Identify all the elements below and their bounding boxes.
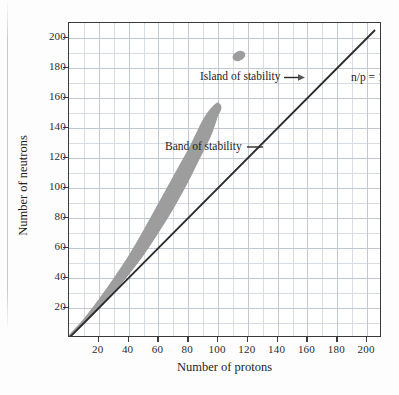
y-tick-label: 140 (49, 120, 66, 132)
x-tick-label: 120 (238, 343, 255, 355)
x-axis-title: Number of protons (68, 360, 381, 375)
y-tick-label: 40 (55, 270, 66, 282)
x-tick-label: 140 (268, 343, 285, 355)
annotation-island-label: Island of stability (200, 70, 281, 82)
y-tick-label: 80 (55, 210, 66, 222)
x-tick-label: 80 (182, 343, 193, 355)
annotation-island-of-stability: Island of stability (200, 70, 306, 82)
x-tick-mark (306, 337, 307, 342)
y-tick-label: 60 (55, 240, 66, 252)
band-of-stability-area (68, 102, 221, 337)
x-tick-mark (98, 337, 99, 342)
chart-page: Island of stability Band of stability n/… (0, 0, 399, 395)
y-tick-label: 20 (55, 300, 66, 312)
annotation-band-of-stability: Band of stability (165, 140, 265, 152)
x-tick-mark (157, 337, 158, 342)
y-tick-label: 160 (49, 90, 66, 102)
scan-edge-artifact (7, 0, 8, 330)
x-tick-mark (247, 337, 248, 342)
dash-right-icon (247, 143, 265, 151)
x-tick-mark (217, 337, 218, 342)
x-tick-label: 100 (208, 343, 225, 355)
y-tick-label: 100 (49, 180, 66, 192)
x-tick-label: 180 (328, 343, 345, 355)
x-tick-label: 60 (152, 343, 163, 355)
annotation-np-ratio: n/p = 1 (351, 71, 381, 83)
y-tick-label: 180 (49, 60, 66, 72)
y-tick-label: 120 (49, 150, 66, 162)
x-tick-mark (336, 337, 337, 342)
y-tick-label: 200 (49, 30, 66, 42)
plot-area: Island of stability Band of stability n/… (68, 22, 381, 337)
x-tick-mark (366, 337, 367, 342)
x-tick-mark (277, 337, 278, 342)
annotation-band-label: Band of stability (165, 140, 242, 152)
x-tick-label: 20 (92, 343, 103, 355)
x-tick-mark (128, 337, 129, 342)
arrow-right-icon (284, 73, 306, 82)
x-tick-label: 200 (358, 343, 375, 355)
island-of-stability-blob (231, 49, 247, 63)
x-tick-mark (187, 337, 188, 342)
x-tick-label: 160 (298, 343, 315, 355)
y-axis-title: Number of neutrons (16, 101, 31, 271)
x-tick-label: 40 (122, 343, 133, 355)
